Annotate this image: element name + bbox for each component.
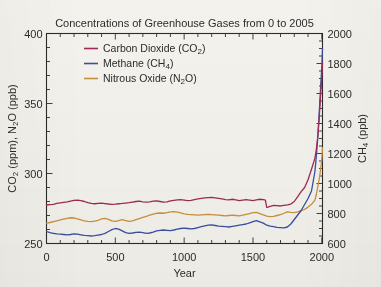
legend-label-main: Methane (CH: [103, 57, 165, 69]
label-part: CO: [6, 176, 18, 193]
y-tick-label-right: 800: [328, 208, 346, 220]
legend-label-tail: ): [202, 42, 206, 54]
chart-canvas: 0500100015002000Year25030035040060080010…: [0, 0, 381, 287]
label-part: (ppm), N: [6, 126, 18, 172]
y-tick-label-left: 250: [24, 238, 42, 250]
y-tick-label-right: 1400: [328, 118, 352, 130]
x-tick-label: 1500: [241, 251, 265, 263]
y-tick-label-left: 400: [24, 28, 42, 40]
chart-title: Concentrations of Greenhouse Gases from …: [55, 17, 314, 29]
y-axis-title-left-text: CO2 (ppm), N2O (ppb): [6, 84, 20, 193]
y-tick-label-left: 300: [24, 168, 42, 180]
y-tick-label-right: 1800: [328, 58, 352, 70]
y-axis-title-left: CO2 (ppm), N2O (ppb): [6, 84, 20, 193]
y-tick-label-right: 2000: [328, 28, 352, 40]
y-tick-label-right: 600: [328, 238, 346, 250]
y-axis-title-right-text: CH4 (ppb): [356, 114, 370, 163]
x-tick-label: 2000: [310, 251, 334, 263]
label-part: O (ppb): [6, 84, 18, 121]
y-tick-label-right: 1200: [328, 148, 352, 160]
y-tick-label-left: 350: [24, 98, 42, 110]
x-tick-label: 1000: [172, 251, 196, 263]
x-tick-label: 500: [106, 251, 124, 263]
greenhouse-gas-chart-figure: 0500100015002000Year25030035040060080010…: [0, 0, 381, 287]
legend-label-tail: O): [185, 72, 197, 84]
x-tick-label: 0: [43, 251, 49, 263]
y-axis-title-right: CH4 (ppb): [356, 114, 370, 163]
x-axis-label: Year: [173, 267, 196, 279]
legend-label-tail: ): [170, 57, 174, 69]
legend-label-2: Methane (CH4): [103, 57, 173, 71]
legend-label-main: Nitrous Oxide (N: [103, 72, 181, 84]
y-tick-label-right: 1000: [328, 178, 352, 190]
label-part: CH: [356, 147, 368, 163]
y-tick-label-right: 1600: [328, 88, 352, 100]
label-part: (ppb): [356, 114, 368, 143]
legend-label-1: Carbon Dioxide (CO2): [103, 42, 206, 56]
legend-label-main: Carbon Dioxide (CO: [103, 42, 198, 54]
